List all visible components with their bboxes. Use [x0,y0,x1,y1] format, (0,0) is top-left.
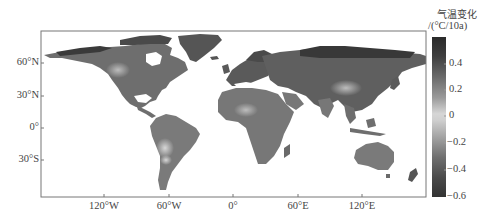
lat-label-0: 0° [1,121,39,132]
lat-label-30s: 30°S [1,153,39,164]
australia [354,142,394,170]
colorbar-label-0.2: 0.2 [449,83,462,94]
lon-label-120w: 120°W [89,200,119,211]
lat-label-30n: 30°N [1,89,39,100]
colorbar-label-0: 0 [449,109,454,120]
colorbar-label-0.4: 0.4 [449,57,462,68]
lon-label-120e: 120°E [349,200,375,211]
land-masses [44,34,426,190]
colorbar-label-neg0.4: −0.4 [447,163,466,174]
lon-label-0: 0° [228,200,237,211]
colorbar [432,37,446,197]
colorbar-title-line2: /(°C/10a) [428,20,467,31]
colorbar-label-neg0.6: −0.6 [447,190,466,201]
colorbar-title-line1: 气温变化 [437,6,477,21]
world-map [0,0,478,221]
lon-label-60w: 60°W [157,200,182,211]
lon-label-60e: 60°E [287,200,308,211]
colorbar-label-neg0.2: −0.2 [447,136,466,147]
africa [218,88,294,164]
lat-label-60n: 60°N [1,56,39,67]
